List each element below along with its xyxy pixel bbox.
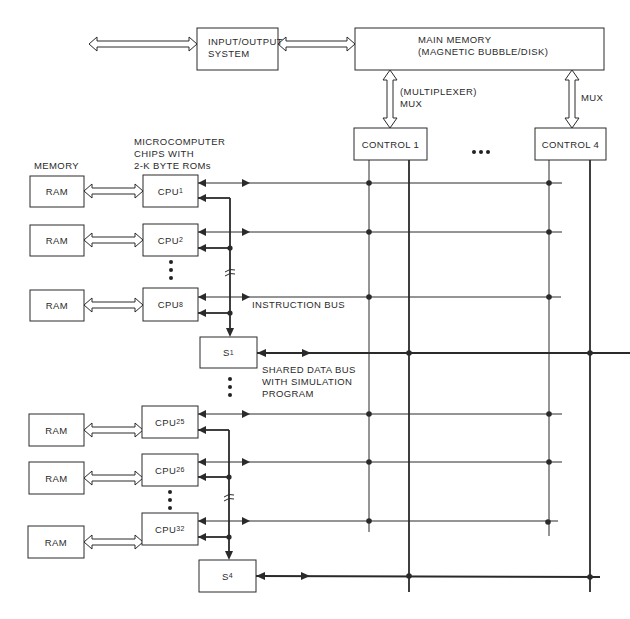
memory-heading: MEMORY — [34, 160, 79, 172]
cpu-1-label: CPU1 — [143, 175, 198, 207]
shared-bus-line2: WITH SIMULATION — [262, 376, 356, 388]
control-4-label: CONTROL 4 — [535, 128, 606, 160]
mux-arrow-left — [383, 70, 397, 128]
io-memory-arrow — [278, 37, 355, 51]
s4-label: S4 — [199, 560, 256, 592]
shared-data-bus-label: SHARED DATA BUS WITH SIMULATION PROGRAM — [262, 364, 356, 400]
ram-label: RAM — [28, 526, 84, 558]
mux-left-line2: MUX — [400, 98, 477, 110]
ram-label: RAM — [29, 414, 84, 446]
vertical-ellipsis-icon — [169, 260, 173, 284]
mux-left-line1: (MULTIPLEXER) — [400, 86, 477, 98]
io-label-line2: SYSTEM — [208, 48, 283, 60]
shared-bus-line3: PROGRAM — [262, 388, 356, 400]
vertical-ellipsis-icon — [228, 377, 232, 401]
ram-label: RAM — [29, 462, 84, 494]
io-system-label: INPUT/OUTPUT SYSTEM — [208, 36, 283, 60]
external-io-arrow — [89, 37, 197, 51]
control-1-label: CONTROL 1 — [354, 128, 427, 160]
cpu-heading-line2: CHIPS WITH — [134, 148, 225, 160]
shared-bus-line1: SHARED DATA BUS — [262, 364, 356, 376]
cpu-heading: MICROCOMPUTER CHIPS WITH 2-K BYTE ROMs — [134, 136, 225, 172]
io-label-line1: INPUT/OUTPUT — [208, 36, 283, 48]
vertical-ellipsis-icon — [168, 490, 172, 514]
cpu-32-label: CPU32 — [142, 513, 198, 545]
mux-left-label: (MULTIPLEXER) MUX — [400, 86, 477, 110]
main-memory-label: MAIN MEMORY (MAGNETIC BUBBLE/DISK) — [418, 34, 548, 58]
cpu-25-label: CPU25 — [142, 406, 198, 438]
ram-label: RAM — [30, 290, 84, 321]
main-memory-line1: MAIN MEMORY — [418, 34, 548, 46]
mux-arrow-right — [565, 70, 579, 128]
ellipsis-icon — [472, 140, 493, 158]
s1-label: S1 — [200, 337, 257, 368]
cpu-8-label: CPU8 — [143, 288, 198, 321]
main-memory-line2: (MAGNETIC BUBBLE/DISK) — [418, 46, 548, 58]
cpu-26-label: CPU26 — [142, 454, 198, 486]
ram-label: RAM — [30, 176, 84, 207]
instruction-bus-label: INSTRUCTION BUS — [252, 299, 345, 311]
cpu-2-label: CPU2 — [143, 224, 198, 256]
ram-label: RAM — [30, 225, 84, 256]
cpu-heading-line1: MICROCOMPUTER — [134, 136, 225, 148]
cpu-heading-line3: 2-K BYTE ROMs — [134, 160, 225, 172]
mux-right-label: MUX — [581, 92, 603, 104]
